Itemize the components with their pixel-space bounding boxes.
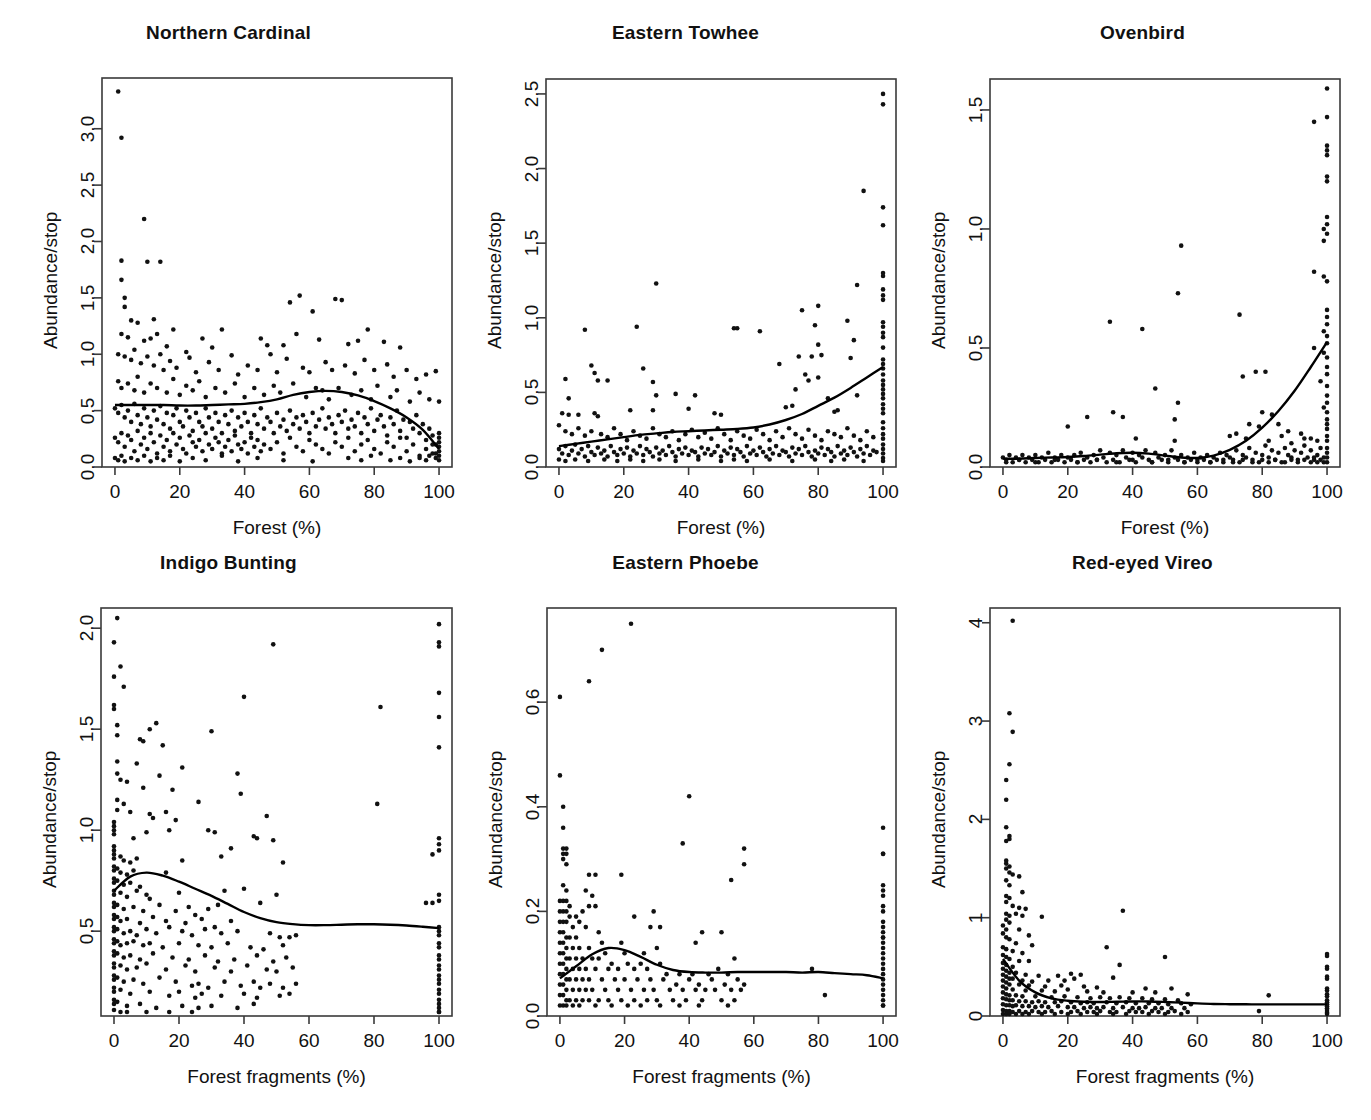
plot-panel-1: Northern Cardinal0204060801000.00.51.01.…: [0, 22, 457, 552]
y-tick-label: 0.5: [965, 326, 987, 370]
x-tick-label: 60: [299, 481, 320, 503]
plot-panel-4: Indigo Bunting0204060801000.51.01.52.0Fo…: [0, 552, 457, 1120]
y-tick-label: 1.0: [965, 207, 987, 251]
figure-panel-grid: Northern Cardinal0204060801000.00.51.01.…: [0, 0, 1371, 1120]
x-axis-title: Forest fragments (%): [101, 1066, 452, 1088]
y-tick-label: 2.0: [77, 219, 99, 263]
x-tick-label: 80: [808, 1030, 829, 1052]
x-tick-label: 40: [233, 1030, 254, 1052]
x-tick-label: 100: [423, 1030, 455, 1052]
y-tick-label: 1.0: [521, 296, 543, 340]
x-tick-label: 80: [1252, 481, 1273, 503]
x-tick-label: 60: [1187, 1030, 1208, 1052]
y-axis-title: Abundance/stop: [484, 212, 506, 349]
smoothing-line: [560, 948, 883, 979]
x-tick-label: 40: [1122, 1030, 1143, 1052]
y-tick-label: 1.0: [77, 332, 99, 376]
y-tick-label: 2: [965, 797, 987, 841]
x-tick-label: 100: [1311, 481, 1343, 503]
x-tick-label: 80: [363, 1030, 384, 1052]
x-tick-label: 0: [555, 1030, 566, 1052]
x-tick-label: 20: [168, 1030, 189, 1052]
y-tick-label: 1.5: [521, 221, 543, 265]
y-tick-label: 0.5: [521, 370, 543, 414]
x-tick-label: 40: [234, 481, 255, 503]
x-tick-label: 20: [1057, 1030, 1078, 1052]
x-tick-label: 0: [109, 1030, 120, 1052]
x-tick-label: 80: [808, 481, 829, 503]
scatter-points: [113, 89, 442, 463]
scatter-points: [558, 621, 886, 1007]
x-tick-label: 80: [1252, 1030, 1273, 1052]
x-tick-label: 100: [1311, 1030, 1343, 1052]
y-axis-title: Abundance/stop: [40, 211, 62, 348]
x-tick-label: 100: [867, 481, 899, 503]
y-tick-label: 0: [965, 994, 987, 1038]
y-tick-label: 0.5: [77, 389, 99, 433]
x-tick-label: 20: [169, 481, 190, 503]
plot-panel-6: Red-eyed Vireo02040608010001234Forest fr…: [914, 552, 1371, 1120]
x-tick-label: 100: [867, 1030, 899, 1052]
plot-panel-5: Eastern Phoebe0204060801000.00.20.40.6Fo…: [457, 552, 914, 1120]
y-tick-label: 0.4: [522, 785, 544, 829]
y-axis-title: Abundance/stop: [485, 751, 507, 888]
x-tick-label: 60: [298, 1030, 319, 1052]
scatter-points: [557, 92, 886, 464]
x-tick-label: 40: [1122, 481, 1143, 503]
y-tick-label: 3: [965, 699, 987, 743]
y-tick-label: 0.0: [521, 445, 543, 489]
plot-canvas: [0, 552, 457, 1120]
plot-box: [990, 79, 1340, 467]
y-tick-label: 0.0: [77, 445, 99, 489]
plot-box: [547, 608, 896, 1016]
y-tick-label: 2.5: [77, 163, 99, 207]
x-tick-label: 60: [1187, 481, 1208, 503]
x-tick-label: 20: [614, 1030, 635, 1052]
plot-panel-3: Ovenbird0204060801000.00.51.01.5Forest (…: [914, 22, 1371, 552]
y-tick-label: 2.5: [521, 72, 543, 116]
scatter-points: [112, 616, 442, 1014]
y-axis-title: Abundance/stop: [39, 751, 61, 888]
y-axis-title: Abundance/stop: [928, 212, 950, 349]
y-tick-label: 1.0: [76, 808, 98, 852]
smoothing-line: [1003, 342, 1327, 459]
y-axis-title: Abundance/stop: [928, 751, 950, 888]
plot-box: [546, 79, 896, 467]
x-tick-label: 0: [554, 481, 565, 503]
y-tick-label: 0.2: [522, 889, 544, 933]
y-tick-label: 0.6: [522, 680, 544, 724]
scatter-points: [1001, 618, 1330, 1016]
y-tick-label: 1.5: [76, 707, 98, 751]
x-tick-label: 20: [613, 481, 634, 503]
y-tick-label: 0.0: [522, 994, 544, 1038]
x-tick-label: 40: [678, 481, 699, 503]
x-tick-label: 80: [364, 481, 385, 503]
x-tick-label: 0: [110, 481, 121, 503]
x-tick-label: 60: [743, 1030, 764, 1052]
x-axis-title: Forest (%): [546, 517, 896, 539]
y-tick-label: 4: [965, 601, 987, 645]
smoothing-line: [114, 873, 439, 929]
y-tick-label: 2.0: [521, 147, 543, 191]
x-axis-title: Forest (%): [102, 517, 452, 539]
x-tick-label: 100: [423, 481, 455, 503]
y-tick-label: 1.5: [77, 276, 99, 320]
y-tick-label: 0.5: [76, 909, 98, 953]
y-tick-label: 0.0: [965, 445, 987, 489]
x-axis-title: Forest fragments (%): [990, 1066, 1340, 1088]
y-tick-label: 2.0: [76, 606, 98, 650]
x-axis-title: Forest (%): [990, 517, 1340, 539]
plot-panel-2: Eastern Towhee0204060801000.00.51.01.52.…: [457, 22, 914, 552]
plot-canvas: [0, 22, 457, 552]
x-tick-label: 0: [998, 1030, 1009, 1052]
x-tick-label: 60: [743, 481, 764, 503]
x-tick-label: 0: [998, 481, 1009, 503]
y-tick-label: 1.5: [965, 88, 987, 132]
x-axis-title: Forest fragments (%): [547, 1066, 896, 1088]
x-tick-label: 20: [1057, 481, 1078, 503]
y-tick-label: 1: [965, 896, 987, 940]
y-tick-label: 3.0: [77, 107, 99, 151]
x-tick-label: 40: [679, 1030, 700, 1052]
